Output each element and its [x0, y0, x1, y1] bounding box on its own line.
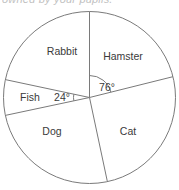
slice-label-fish: Fish [20, 91, 40, 103]
angle-label-76: 76° [99, 81, 115, 93]
slice-label-hamster: Hamster [103, 50, 143, 62]
pie-chart-svg: Hamster Cat Dog Fish Rabbit 76° 24° [0, 0, 179, 190]
slice-label-rabbit: Rabbit [47, 45, 77, 57]
angle-label-24: 24° [54, 91, 70, 103]
pie-chart-figure: owned by your pupils. Hamster Cat Dog Fi… [0, 0, 179, 190]
slice-label-dog: Dog [42, 125, 61, 137]
slice-label-cat: Cat [120, 125, 136, 137]
